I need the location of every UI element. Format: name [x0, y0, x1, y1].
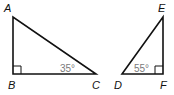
- triangle-def: E D F 55°: [114, 2, 168, 91]
- triangle-abc-outline: [13, 17, 96, 74]
- angle-label-d: 55°: [134, 63, 149, 74]
- triangles-diagram: A B C 35° E D F 55°: [0, 0, 174, 95]
- angle-label-c: 35°: [60, 63, 75, 74]
- triangle-abc: A B C 35°: [3, 2, 100, 91]
- right-angle-marker-b: [13, 66, 21, 74]
- vertex-label-d: D: [114, 79, 122, 91]
- right-angle-marker-f: [155, 66, 163, 74]
- vertex-label-f: F: [160, 79, 168, 91]
- vertex-label-b: B: [8, 79, 15, 91]
- vertex-label-e: E: [158, 2, 166, 14]
- vertex-label-c: C: [92, 79, 100, 91]
- vertex-label-a: A: [3, 2, 11, 14]
